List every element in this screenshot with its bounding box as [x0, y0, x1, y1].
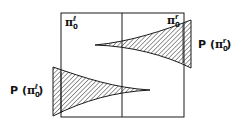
distribution-left-shape: [53, 67, 150, 116]
label-p-right: P (π0r): [198, 38, 231, 53]
pi-symbol: π: [27, 84, 35, 97]
label-p-left: P (π0ℓ): [10, 84, 43, 99]
suffix: ): [226, 38, 231, 51]
diagram-canvas: [0, 0, 246, 126]
suffix: ): [38, 84, 43, 97]
pi-symbol: π: [65, 16, 73, 29]
prefix: P (: [198, 38, 215, 51]
label-pi-left: π0ℓ: [65, 16, 76, 31]
label-pi-right: π0r: [167, 14, 178, 29]
pi-symbol: π: [215, 38, 223, 51]
prefix: P (: [10, 84, 27, 97]
subscript: 0: [73, 23, 78, 31]
superscript: r: [175, 13, 178, 21]
subscript: 0: [175, 21, 180, 29]
pi-symbol: π: [167, 14, 175, 27]
superscript: ℓ: [73, 15, 76, 23]
